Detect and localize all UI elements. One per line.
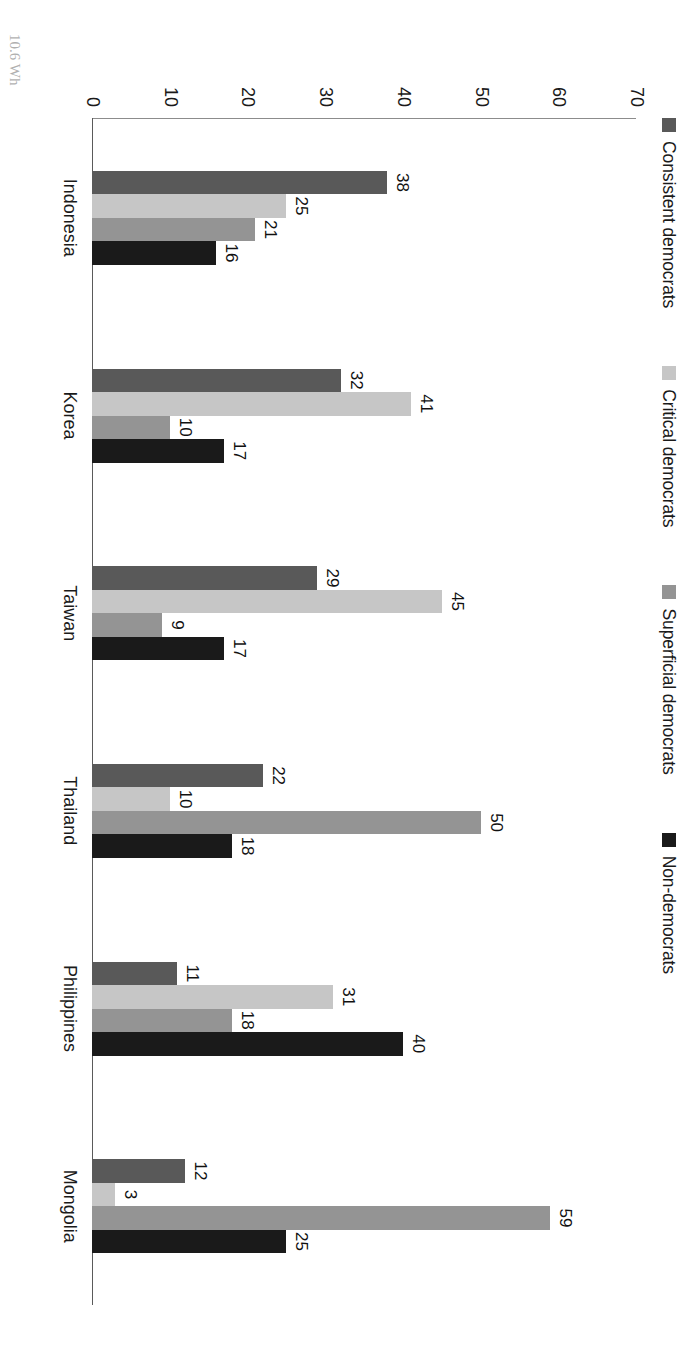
bar-value-label: 32 — [346, 371, 366, 390]
bar-value-label: 18 — [237, 837, 257, 856]
legend-entry: Critical democrats — [659, 366, 680, 527]
bar-value-label: 29 — [322, 568, 342, 587]
bar[interactable]: 22 — [92, 764, 263, 788]
bar-slot: 41 — [92, 392, 636, 416]
bar-slot: 16 — [92, 241, 636, 265]
bar[interactable]: 25 — [92, 1230, 286, 1254]
bar-value-label: 16 — [221, 244, 241, 263]
bar-value-label: 17 — [229, 441, 249, 460]
plot-inner: 010203040506070 38252116Indonesia3241101… — [92, 118, 636, 1305]
bar[interactable]: 45 — [92, 590, 442, 614]
chart-legend: Consistent democratsCritical democratsSu… — [656, 118, 682, 974]
y-axis-tick-label: 0 — [82, 97, 103, 107]
y-axis-tick-label: 40 — [392, 87, 413, 107]
rotated-figure-frame: Consistent democratsCritical democratsSu… — [0, 0, 698, 1345]
bar-value-label: 21 — [260, 220, 280, 239]
bar-slot: 17 — [92, 637, 636, 661]
bar-slot: 18 — [92, 834, 636, 858]
bar[interactable]: 11 — [92, 962, 177, 986]
y-axis-tick-label: 30 — [315, 87, 336, 107]
bar[interactable]: 17 — [92, 637, 224, 661]
bar-slot: 22 — [92, 764, 636, 788]
legend-label: Consistent democrats — [659, 141, 680, 308]
bar-value-label: 3 — [120, 1190, 140, 1199]
bar-value-label: 11 — [182, 964, 202, 982]
plot-area: 010203040506070 38252116Indonesia3241101… — [92, 118, 636, 1305]
bar[interactable]: 16 — [92, 241, 216, 265]
bar[interactable]: 9 — [92, 613, 162, 637]
y-axis-tick-label: 50 — [470, 87, 491, 107]
bar-slot: 38 — [92, 171, 636, 195]
bar-value-label: 9 — [167, 620, 187, 629]
bar-groups: 38252116Indonesia32411017Korea2945917Tai… — [92, 119, 636, 1305]
category-label: Korea — [59, 391, 80, 439]
bar[interactable]: 10 — [92, 416, 170, 440]
bar-slot: 59 — [92, 1206, 636, 1230]
bar-slot: 45 — [92, 590, 636, 614]
category-label: Philippines — [59, 965, 80, 1052]
bar-slot: 40 — [92, 1032, 636, 1056]
bar-value-label: 18 — [237, 1011, 257, 1030]
bar[interactable]: 50 — [92, 811, 481, 835]
bar-value-label: 40 — [408, 1034, 428, 1053]
legend-swatch-icon — [662, 118, 676, 132]
legend-label: Critical democrats — [659, 389, 680, 527]
y-axis-tick-label: 10 — [159, 87, 180, 107]
bar-value-label: 25 — [291, 197, 311, 216]
bar-slot: 10 — [92, 416, 636, 440]
bar-group: 1235925Mongolia — [92, 1107, 636, 1305]
bar-value-label: 45 — [447, 592, 467, 611]
bar-value-label: 17 — [229, 639, 249, 658]
figure-caption: 10.6 Wh — [6, 34, 23, 85]
bar[interactable]: 18 — [92, 834, 232, 858]
bar[interactable]: 3 — [92, 1183, 115, 1207]
bar-group: 22105018Thailand — [92, 712, 636, 910]
bar[interactable]: 59 — [92, 1206, 551, 1230]
bar-group: 32411017Korea — [92, 317, 636, 515]
bar[interactable]: 25 — [92, 194, 286, 218]
chart-figure: Consistent democratsCritical democratsSu… — [0, 0, 698, 1345]
bar-value-label: 38 — [392, 173, 412, 192]
bar-value-label: 31 — [338, 987, 358, 1006]
bar[interactable]: 12 — [92, 1159, 185, 1183]
legend-label: Non-democrats — [659, 856, 680, 974]
category-label: Mongolia — [59, 1170, 80, 1243]
bar-slot: 31 — [92, 985, 636, 1009]
bar-slot: 21 — [92, 218, 636, 242]
bar-value-label: 50 — [486, 813, 506, 832]
bar-value-label: 41 — [416, 394, 436, 413]
bar-value-label: 12 — [190, 1161, 210, 1180]
bar-slot: 29 — [92, 566, 636, 590]
bar[interactable]: 21 — [92, 218, 255, 242]
bar-value-label: 22 — [268, 766, 288, 785]
legend-entry: Consistent democrats — [659, 118, 680, 308]
bar-slot: 32 — [92, 369, 636, 393]
bar-value-label: 10 — [175, 418, 195, 437]
bar-value-label: 59 — [556, 1208, 576, 1227]
bar-value-label: 10 — [175, 790, 195, 809]
bar-slot: 9 — [92, 613, 636, 637]
bar[interactable]: 10 — [92, 787, 170, 811]
bar-slot: 25 — [92, 194, 636, 218]
legend-label: Superficial democrats — [659, 608, 680, 774]
bar-slot: 10 — [92, 787, 636, 811]
bar[interactable]: 40 — [92, 1032, 403, 1056]
category-label: Taiwan — [59, 585, 80, 641]
bar-slot: 25 — [92, 1230, 636, 1254]
bar[interactable]: 32 — [92, 369, 341, 393]
category-label: Indonesia — [59, 179, 80, 257]
bar-value-label: 25 — [291, 1232, 311, 1251]
y-axis-tick-label: 70 — [626, 87, 647, 107]
bar[interactable]: 29 — [92, 566, 317, 590]
bar[interactable]: 31 — [92, 985, 333, 1009]
legend-entry: Superficial democrats — [659, 585, 680, 774]
bar[interactable]: 18 — [92, 1009, 232, 1033]
bar-slot: 50 — [92, 811, 636, 835]
legend-swatch-icon — [662, 833, 676, 847]
bar[interactable]: 41 — [92, 392, 411, 416]
bar[interactable]: 17 — [92, 439, 224, 463]
category-label: Thailand — [59, 776, 80, 845]
bar-slot: 12 — [92, 1159, 636, 1183]
bar-group: 2945917Taiwan — [92, 514, 636, 712]
bar[interactable]: 38 — [92, 171, 387, 195]
